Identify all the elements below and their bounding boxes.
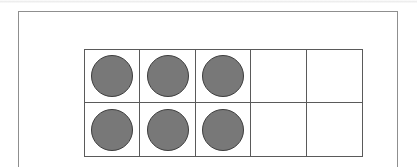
counter-circle-8 [202,109,244,151]
ten-frame-cell-5 [307,50,362,103]
ten-frame-cell-3 [196,50,251,103]
ten-frame-cell-10 [307,103,362,156]
ten-frame-grid [84,49,363,157]
page-border-frame [18,11,398,167]
ten-frame-cell-2 [140,50,195,103]
counter-circle-7 [147,109,189,151]
ten-frame-cell-9 [251,103,306,156]
counter-circle-2 [147,55,189,97]
counter-circle-3 [202,55,244,97]
scan-edge-artifact [0,0,417,3]
ten-frame-cell-6 [85,103,140,156]
ten-frame-cell-8 [196,103,251,156]
counter-circle-6 [91,109,133,151]
ten-frame-worksheet-image: A two-by-five ten frame with six grey ro… [0,0,417,167]
ten-frame-cell-4 [251,50,306,103]
ten-frame-cell-7 [140,103,195,156]
counter-circle-1 [91,55,133,97]
ten-frame-cell-1 [85,50,140,103]
